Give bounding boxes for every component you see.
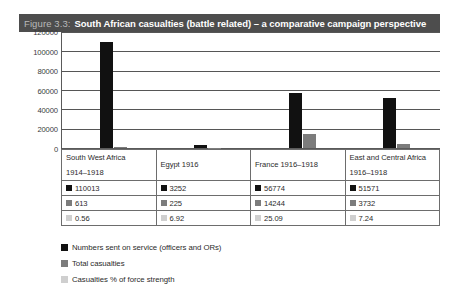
series-swatch-icon [350, 215, 356, 221]
bar-group [346, 32, 441, 148]
table-header-row: South West Africa 1914–1918 Egypt 1916 F… [62, 150, 439, 181]
table-cell: 225 [157, 196, 252, 210]
bar [114, 147, 127, 148]
chart-legend: Numbers sent on service (officers and OR… [61, 239, 440, 287]
data-table: South West Africa 1914–1918 Egypt 1916 F… [61, 149, 440, 226]
legend-item: Total casualties [61, 255, 440, 271]
table-header-line2: 1916–1918 [350, 166, 388, 179]
series-swatch-icon [66, 200, 72, 206]
series-swatch-icon [255, 185, 261, 191]
table-header-line1: France 1916–1918 [255, 158, 318, 171]
legend-label: Total casualties [72, 259, 125, 268]
table-cell-value: 25.09 [264, 214, 283, 223]
bar-group [251, 32, 346, 148]
table-cell-value: 14244 [264, 199, 285, 208]
table-cell: 6.92 [157, 211, 252, 225]
table-cell: 25.09 [251, 211, 346, 225]
bar-group [157, 32, 252, 148]
table-header-cell: South West Africa 1914–1918 [62, 150, 157, 180]
bar-groups [62, 32, 440, 148]
series-swatch-icon [255, 215, 261, 221]
table-cell: 613 [62, 196, 157, 210]
table-cell: 3252 [157, 181, 252, 195]
legend-swatch-icon [61, 260, 68, 267]
table-header-line1: Egypt 1916 [161, 158, 199, 171]
series-swatch-icon [350, 185, 356, 191]
table-row: 0.56 6.92 25.09 7.24 [62, 211, 439, 226]
figure-title: South African casualties (battle related… [75, 18, 427, 29]
table-row: 110013 3252 56774 51571 [62, 181, 439, 196]
series-swatch-icon [350, 200, 356, 206]
bar [289, 93, 302, 148]
legend-label: Numbers sent on service (officers and OR… [72, 243, 221, 252]
chart-canvas [61, 32, 440, 149]
bar [383, 98, 396, 148]
table-cell-value: 3732 [359, 199, 376, 208]
legend-item: Numbers sent on service (officers and OR… [61, 239, 440, 255]
figure-title-bar: Figure 3.3: South African casualties (ba… [19, 14, 440, 32]
chart-plot-area: 120000 100000 80000 60000 40000 20000 0 [19, 32, 440, 149]
figure-container: Figure 3.3: South African casualties (ba… [0, 0, 463, 303]
bar [100, 42, 113, 148]
table-cell-value: 56774 [264, 184, 285, 193]
table-cell-value: 613 [75, 199, 88, 208]
table-row: 613 225 14244 3732 [62, 196, 439, 211]
y-axis-tick: 20000 [37, 125, 58, 134]
table-header-cell: Egypt 1916 [157, 150, 252, 180]
table-cell: 3732 [346, 196, 440, 210]
series-swatch-icon [161, 185, 167, 191]
table-cell-value: 7.24 [359, 214, 374, 223]
legend-swatch-icon [61, 244, 68, 251]
table-header-cell: France 1916–1918 [251, 150, 346, 180]
table-header-cell: East and Central Africa 1916–1918 [346, 150, 440, 180]
table-cell-value: 51571 [359, 184, 380, 193]
y-axis-tick: 100000 [33, 47, 58, 56]
table-cell: 7.24 [346, 211, 440, 225]
legend-swatch-icon [61, 276, 68, 283]
y-axis-tick: 80000 [37, 66, 58, 75]
series-swatch-icon [161, 215, 167, 221]
table-cell: 56774 [251, 181, 346, 195]
table-header-line1: South West Africa [66, 151, 125, 164]
table-cell: 14244 [251, 196, 346, 210]
table-header-line2: 1914–1918 [66, 166, 104, 179]
bar [194, 145, 207, 148]
y-axis-tick: 60000 [37, 86, 58, 95]
series-swatch-icon [66, 215, 72, 221]
table-cell-value: 225 [170, 199, 183, 208]
series-swatch-icon [161, 200, 167, 206]
y-axis-tick: 0 [54, 145, 58, 154]
bar-group [62, 32, 157, 148]
table-cell-value: 6.92 [170, 214, 185, 223]
table-header-line1: East and Central Africa [350, 151, 427, 164]
table-cell-value: 3252 [170, 184, 187, 193]
legend-item: Casualties % of force strength [61, 271, 440, 287]
table-cell-value: 110013 [75, 184, 99, 193]
y-axis-tick: 120000 [33, 28, 58, 37]
series-swatch-icon [255, 200, 261, 206]
legend-label: Casualties % of force strength [72, 275, 175, 284]
y-axis-tick: 40000 [37, 106, 58, 115]
bar [397, 144, 410, 148]
table-cell: 0.56 [62, 211, 157, 225]
y-axis: 120000 100000 80000 60000 40000 20000 0 [19, 32, 61, 149]
series-swatch-icon [66, 185, 72, 191]
table-cell-value: 0.56 [75, 214, 90, 223]
table-cell: 51571 [346, 181, 440, 195]
table-cell: 110013 [62, 181, 157, 195]
bar [303, 134, 316, 148]
